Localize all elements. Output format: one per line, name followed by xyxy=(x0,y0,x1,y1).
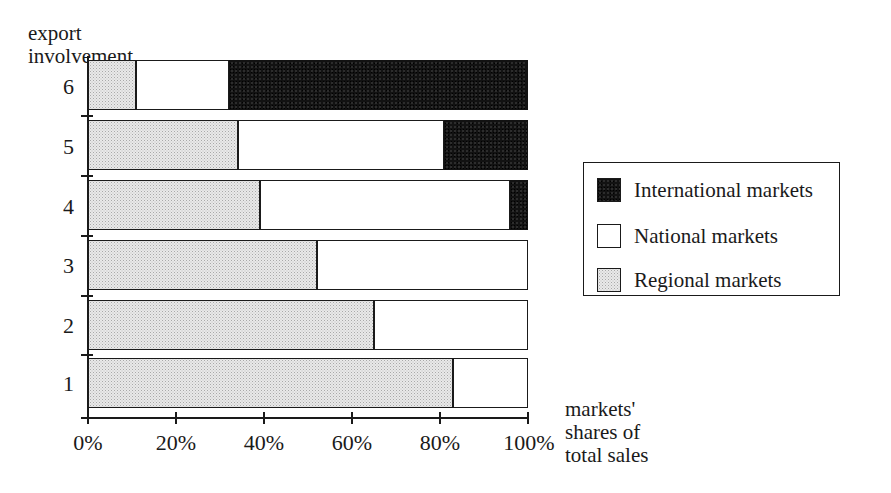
bar-row xyxy=(88,240,528,290)
x-axis-caption-line-3: total sales xyxy=(565,444,648,467)
x-tick-label-20: 20% xyxy=(131,430,221,456)
bar-segment-international xyxy=(229,60,528,110)
legend: International markets National markets R… xyxy=(583,162,840,296)
x-axis-line xyxy=(87,417,529,419)
bar-segment-national xyxy=(374,300,528,350)
x-axis-caption-line-1: markets' xyxy=(565,398,648,421)
plot-area xyxy=(88,56,528,416)
bar-segment-regional xyxy=(88,60,136,110)
y-tick-label-5: 5 xyxy=(34,134,74,160)
bar-row xyxy=(88,120,528,170)
black-filled-swatch-icon xyxy=(597,178,621,202)
y-tick-label-6: 6 xyxy=(34,74,74,100)
bar-segment-international xyxy=(510,180,528,230)
gray-stippled-swatch-icon xyxy=(597,268,621,292)
bar-row xyxy=(88,60,528,110)
bar-segment-national xyxy=(136,60,228,110)
x-axis-caption-line-2: shares of xyxy=(565,421,648,444)
x-tick-label-40: 40% xyxy=(219,430,309,456)
bar-segment-international xyxy=(444,120,528,170)
legend-item-national: National markets xyxy=(597,223,778,249)
bar-row xyxy=(88,358,528,408)
legend-label-national: National markets xyxy=(634,224,778,249)
y-axis-title-line-1: export xyxy=(28,22,133,45)
x-axis-caption: markets' shares of total sales xyxy=(565,398,648,467)
y-tick-label-2: 2 xyxy=(34,313,74,339)
bar-segment-regional xyxy=(88,300,374,350)
legend-label-regional: Regional markets xyxy=(634,268,782,293)
y-tick-label-4: 4 xyxy=(34,194,74,220)
bar-segment-national xyxy=(453,358,528,408)
bar-segment-regional xyxy=(88,358,453,408)
bar-segment-regional xyxy=(88,120,238,170)
legend-item-regional: Regional markets xyxy=(597,267,782,293)
stacked-bar-chart: export involvement 6 5 4 3 2 1 0% 20% 40… xyxy=(0,0,891,493)
bar-row xyxy=(88,180,528,230)
x-tick-label-0: 0% xyxy=(43,430,133,456)
y-tick-label-3: 3 xyxy=(34,253,74,279)
x-tick-label-60: 60% xyxy=(307,430,397,456)
white-empty-swatch-icon xyxy=(597,224,621,248)
y-tick-label-1: 1 xyxy=(34,371,74,397)
bar-segment-regional xyxy=(88,240,317,290)
bar-segment-national xyxy=(238,120,445,170)
x-tick-label-100: 100% xyxy=(484,430,574,456)
legend-label-international: International markets xyxy=(634,178,813,203)
bar-segment-national xyxy=(260,180,511,230)
legend-item-international: International markets xyxy=(597,177,813,203)
x-tick-label-80: 80% xyxy=(395,430,485,456)
bar-segment-national xyxy=(317,240,528,290)
bar-segment-regional xyxy=(88,180,260,230)
bar-row xyxy=(88,300,528,350)
